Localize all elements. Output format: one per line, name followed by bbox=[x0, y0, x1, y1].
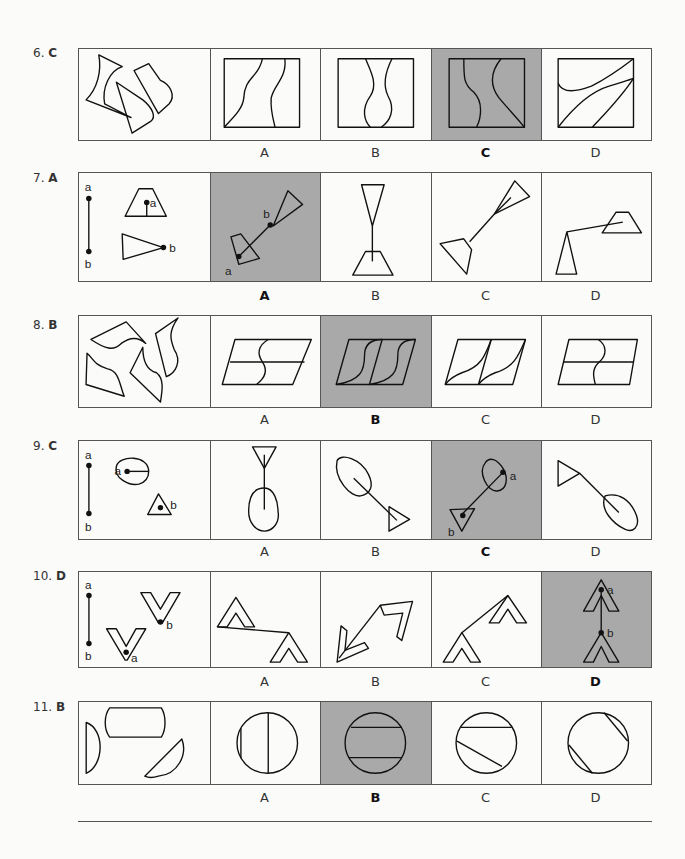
point-label: a bbox=[150, 196, 157, 209]
option-cell-b[interactable] bbox=[320, 702, 431, 784]
point-label: a bbox=[85, 578, 92, 591]
option-figure bbox=[321, 702, 431, 784]
option-figure bbox=[432, 572, 542, 667]
point-label: b bbox=[85, 257, 92, 270]
option-figure bbox=[321, 316, 431, 407]
footer-divider bbox=[78, 821, 652, 822]
puzzle-pieces-figure bbox=[79, 49, 210, 140]
option-cell-a[interactable] bbox=[210, 572, 321, 667]
answer-grid: a b a b b a bbox=[78, 172, 652, 282]
option-label-b: B bbox=[320, 288, 431, 303]
option-figure bbox=[542, 173, 651, 281]
answer-grid: a b b a bbox=[78, 571, 652, 668]
option-figure: a b bbox=[432, 441, 542, 539]
option-figure bbox=[211, 702, 321, 784]
answer-grid bbox=[78, 48, 652, 141]
prompt-cell bbox=[79, 316, 210, 407]
point-label: a bbox=[85, 448, 92, 461]
option-cell-c[interactable]: a b bbox=[431, 441, 542, 539]
option-label-c: C bbox=[430, 288, 541, 303]
option-label-c: C bbox=[430, 544, 541, 559]
option-figure: a b bbox=[542, 572, 651, 667]
option-figure bbox=[432, 316, 542, 407]
option-cell-b[interactable] bbox=[320, 49, 431, 140]
option-cell-c[interactable] bbox=[431, 572, 542, 667]
question-number: 6. C bbox=[33, 46, 57, 60]
option-label-d: D bbox=[540, 412, 651, 427]
prompt-figure: a b a b bbox=[79, 441, 210, 539]
question-number: 7. A bbox=[33, 171, 58, 185]
option-cell-b[interactable] bbox=[320, 173, 431, 281]
option-figure bbox=[542, 441, 651, 539]
option-cell-a[interactable] bbox=[210, 702, 321, 784]
option-figure bbox=[542, 702, 651, 784]
question-number: 10. D bbox=[33, 569, 66, 583]
option-figure bbox=[321, 572, 431, 667]
point-label: a bbox=[225, 264, 232, 277]
option-figure bbox=[211, 316, 321, 407]
answer-grid bbox=[78, 701, 652, 785]
option-label-d: D bbox=[540, 790, 651, 805]
answer-grid: a b a b bbox=[78, 440, 652, 540]
option-figure bbox=[432, 173, 542, 281]
point-label: a bbox=[131, 651, 138, 664]
option-cell-c[interactable] bbox=[431, 316, 542, 407]
option-cell-c[interactable] bbox=[431, 702, 542, 784]
option-label-b: B bbox=[320, 674, 431, 689]
option-cell-d[interactable] bbox=[541, 49, 651, 140]
option-cell-c[interactable] bbox=[431, 49, 542, 140]
option-cell-d[interactable] bbox=[541, 441, 651, 539]
option-cell-b[interactable] bbox=[320, 572, 431, 667]
option-figure bbox=[321, 49, 431, 140]
option-figure bbox=[432, 49, 542, 140]
point-label: b bbox=[85, 520, 92, 533]
option-label-b: B bbox=[320, 145, 431, 160]
answer-grid bbox=[78, 315, 652, 408]
point-label: b bbox=[263, 207, 270, 220]
option-cell-a[interactable] bbox=[210, 49, 321, 140]
option-label-d: D bbox=[540, 145, 651, 160]
answer-key: D bbox=[56, 569, 66, 583]
point-label: a bbox=[510, 469, 517, 482]
option-label-a: A bbox=[209, 145, 320, 160]
option-cell-d[interactable] bbox=[541, 173, 651, 281]
option-cell-b[interactable] bbox=[320, 441, 431, 539]
option-cell-b[interactable] bbox=[320, 316, 431, 407]
option-label-a: A bbox=[209, 412, 320, 427]
prompt-figure: a b a b bbox=[79, 173, 210, 281]
option-label-d: D bbox=[540, 544, 651, 559]
puzzle-pieces-figure bbox=[79, 316, 210, 407]
prompt-cell: a b a b bbox=[79, 441, 210, 539]
option-figure bbox=[542, 316, 651, 407]
option-figure bbox=[432, 702, 542, 784]
point-label: b bbox=[170, 498, 177, 511]
option-cell-a[interactable] bbox=[210, 316, 321, 407]
answer-key: B bbox=[48, 318, 57, 332]
option-label-c: C bbox=[430, 790, 541, 805]
answer-key: B bbox=[56, 700, 65, 714]
prompt-cell: a b b a bbox=[79, 572, 210, 667]
option-figure bbox=[321, 173, 431, 281]
question-number: 8. B bbox=[33, 318, 57, 332]
option-label-d: D bbox=[540, 288, 651, 303]
option-label-a: A bbox=[209, 288, 320, 303]
option-cell-d[interactable]: a b bbox=[541, 572, 651, 667]
point-label: b bbox=[166, 618, 173, 631]
point-label: b bbox=[85, 649, 92, 662]
option-figure bbox=[321, 441, 431, 539]
option-cell-d[interactable] bbox=[541, 316, 651, 407]
answer-key: C bbox=[48, 439, 57, 453]
puzzle-pieces-figure bbox=[79, 702, 210, 784]
point-label: b bbox=[169, 241, 176, 254]
option-label-a: A bbox=[209, 674, 320, 689]
prompt-cell: a b a b bbox=[79, 173, 210, 281]
option-label-a: A bbox=[209, 544, 320, 559]
option-cell-d[interactable] bbox=[541, 702, 651, 784]
answer-key: A bbox=[48, 171, 57, 185]
option-cell-a[interactable] bbox=[210, 441, 321, 539]
option-cell-a[interactable]: b a bbox=[210, 173, 321, 281]
option-figure bbox=[211, 49, 321, 140]
option-cell-c[interactable] bbox=[431, 173, 542, 281]
option-label-c: C bbox=[430, 674, 541, 689]
option-label-c: C bbox=[430, 412, 541, 427]
